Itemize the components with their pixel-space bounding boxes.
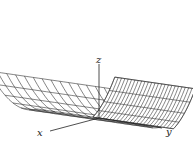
wireframe-mesh bbox=[0, 71, 193, 129]
z-axis-label: z bbox=[96, 55, 101, 65]
x-axis bbox=[50, 118, 99, 131]
y-axis-label: y bbox=[166, 127, 172, 137]
x-axis-label: x bbox=[37, 128, 43, 138]
surface-plot bbox=[0, 0, 193, 151]
